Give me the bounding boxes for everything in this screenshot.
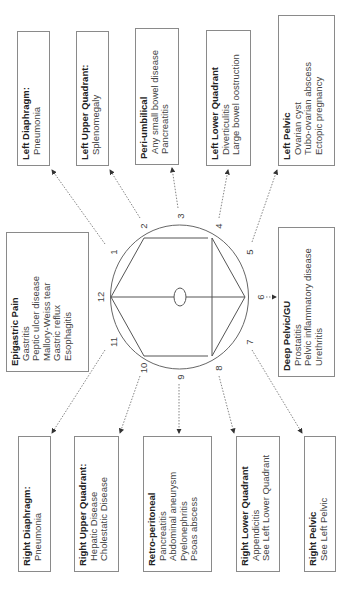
box-item: Peptic ulcer disease — [31, 239, 42, 366]
box-epigastric: Epigastric Pain Gastritis Peptic ulcer d… — [6, 232, 89, 372]
box-right-upper-quadrant: Right Upper Quadrant: Hepatic Disease Ch… — [74, 436, 119, 572]
box-title: Right Pelvic — [308, 443, 319, 566]
clock-number-2: 2 — [138, 223, 149, 228]
box-item: Abdominal aneurysm — [168, 443, 179, 566]
box-right-lower-quadrant: Right Lower Quadrant Appendicitis See Le… — [236, 436, 280, 572]
box-retro-peritoneal: Retro-peritoneal Pancreatitis Abdominal … — [143, 436, 212, 572]
box-left-lower-quadrant: Left Lower Quadrant Diverticulitis Large… — [206, 30, 251, 166]
box-item: Pneumonia — [32, 38, 43, 160]
box-item: Pancreatitis — [160, 35, 171, 159]
box-title: Right Upper Quadrant: — [78, 443, 89, 566]
box-right-pelvic: Right Pelvic See Left Pelvic — [304, 436, 336, 572]
box-item: See Left Pelvic — [319, 443, 330, 566]
box-item: Splenomegaly — [91, 38, 102, 160]
box-item: Large bowel oostruction — [231, 37, 242, 160]
box-title: Left Diaphragm: — [21, 38, 32, 160]
box-item: See Left Lower Quadrant — [261, 443, 272, 566]
box-title: Deep Pelvic/GU — [282, 234, 293, 371]
box-item: Cholestatic Disease — [99, 443, 110, 566]
box-title: Left Upper Quadrant: — [80, 38, 91, 160]
box-peri-umbilical: Peri-umbilical Any small bowel disease P… — [135, 28, 179, 165]
clock-number-8: 8 — [213, 365, 224, 370]
box-deep-pelvic-gu: Deep Pelvic/GU Prostatitis Pelvic inflam… — [278, 227, 335, 377]
box-item: Urethritis — [314, 234, 325, 371]
clock-number-9: 9 — [175, 374, 186, 379]
box-left-diaphragm: Left Diaphragm: Pneumonia — [17, 31, 50, 166]
clock-number-3: 3 — [175, 213, 186, 218]
clock-number-10: 10 — [138, 363, 149, 374]
box-item: Psoas abscess — [189, 443, 200, 566]
box-item: Esophagitis — [63, 239, 74, 366]
box-left-pelvic: Left Pelvic Ovarian cyst Tubo-ovarian ab… — [278, 15, 335, 166]
clock-number-1: 1 — [108, 249, 119, 254]
box-item: Pelvic inflammatory disease — [303, 234, 314, 371]
box-title: Right Lower Quadrant — [240, 443, 251, 566]
box-title: Peri-umbilical — [139, 35, 150, 159]
box-title: Right Diaphragm: — [22, 443, 33, 566]
box-title: Retro-peritoneal — [147, 443, 158, 566]
box-item: Pneumonia — [33, 443, 44, 566]
box-title: Left Lower Quadrant — [210, 37, 221, 160]
navel — [174, 288, 186, 306]
clock-number-4: 4 — [213, 223, 224, 228]
clock-number-7: 7 — [244, 339, 255, 344]
box-item: Tubo-ovarian abscess — [303, 22, 314, 160]
clock-number-5: 5 — [244, 249, 255, 254]
box-item: Ectopic pregnancy — [314, 22, 325, 160]
box-left-upper-quadrant: Left Upper Quadrant: Splenomegaly — [76, 31, 109, 166]
clock-number-12: 12 — [95, 292, 106, 303]
box-right-diaphragm: Right Diaphragm: Pneumonia — [18, 436, 51, 572]
box-item: Gastric reflux — [52, 239, 63, 366]
box-title: Epigastric Pain — [10, 239, 21, 366]
box-title: Left Pelvic — [282, 22, 293, 160]
clock-number-6: 6 — [255, 294, 266, 299]
clock-number-11: 11 — [108, 337, 119, 347]
